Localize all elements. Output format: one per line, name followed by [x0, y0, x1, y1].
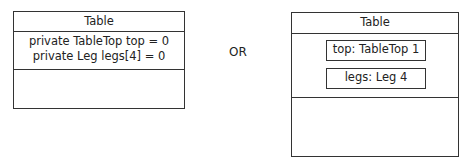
left-class-box: Table private TableTop top = 0 private L… — [13, 11, 185, 109]
left-attributes: private TableTop top = 0 private Leg leg… — [14, 34, 184, 64]
attribute-legs: private Leg legs[4] = 0 — [14, 49, 184, 64]
or-label: OR — [229, 45, 247, 59]
right-divider — [292, 97, 458, 98]
right-class-box: Table top: TableTop 1 legs: Leg 4 — [291, 12, 459, 157]
left-class-name: Table — [14, 12, 184, 32]
part-legs: legs: Leg 4 — [326, 68, 426, 89]
part-top: top: TableTop 1 — [326, 40, 426, 61]
left-divider — [14, 69, 184, 70]
attribute-top: private TableTop top = 0 — [14, 34, 184, 49]
right-class-name: Table — [292, 13, 458, 34]
